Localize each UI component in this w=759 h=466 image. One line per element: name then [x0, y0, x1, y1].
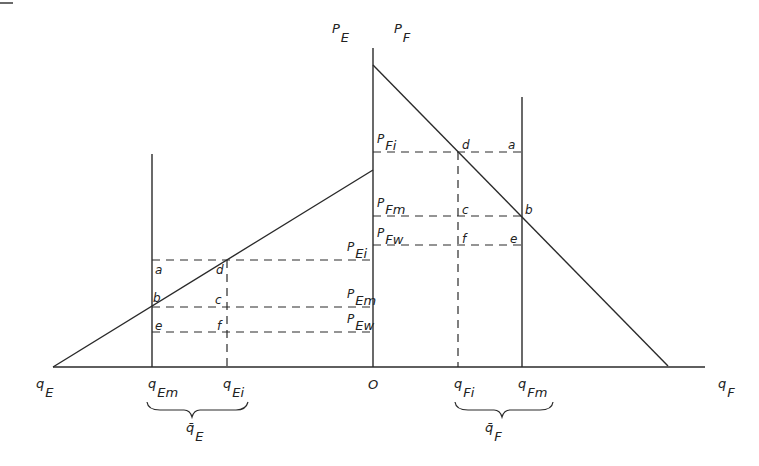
F-brace: [455, 402, 553, 417]
PFm-label: PFm: [377, 196, 404, 209]
F-point-a: a: [508, 139, 515, 151]
PFi-label: PFi: [377, 132, 395, 145]
E-brace: [147, 402, 248, 417]
qFi-label: qFi: [454, 377, 473, 390]
F-point-f: f: [462, 233, 466, 245]
PE-axis-label: PE: [332, 22, 348, 35]
F-point-d: d: [462, 139, 470, 151]
qF-axis-label: qF: [718, 377, 734, 390]
qEm-label: qEm: [148, 377, 177, 390]
F-point-e: e: [510, 233, 517, 245]
qE-axis-label: qE: [36, 377, 52, 390]
E-demand-curve: [53, 170, 373, 367]
E-point-b: b: [153, 292, 161, 304]
PEw-label: PEw: [347, 312, 373, 325]
E-point-e: e: [155, 320, 162, 332]
PFw-label: PFw: [377, 226, 402, 239]
qEi-label: qEi: [223, 377, 243, 390]
PEi-label: PEi: [347, 240, 366, 253]
F-point-c: c: [462, 204, 469, 216]
PEm-label: PEm: [347, 287, 375, 300]
E-point-d: d: [216, 264, 224, 276]
origin-label: O: [368, 378, 378, 391]
qFm-label: qFm: [518, 377, 546, 390]
E-point-a: a: [155, 264, 162, 276]
E-point-c: c: [215, 294, 222, 306]
qE-bar-label: q̄E: [186, 421, 202, 434]
F-point-b: b: [525, 204, 533, 216]
qF-bar-label: q̄F: [485, 421, 501, 434]
E-point-f: f: [217, 320, 221, 332]
PF-axis-label: PF: [394, 22, 409, 35]
